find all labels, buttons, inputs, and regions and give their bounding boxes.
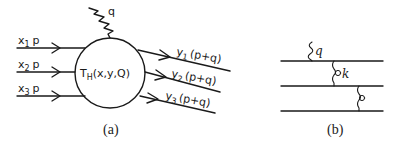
caption-a: (a) [103, 122, 119, 138]
photon-label-b: q [315, 44, 323, 58]
caption-b: (b) [327, 122, 343, 138]
outgoing-label-2: y2(p+q) [170, 67, 217, 90]
incoming-label-1: x1p [18, 34, 40, 49]
photon-label-a: q [108, 5, 115, 18]
vertex-label: TH(x,y,Q) [79, 67, 130, 82]
gluon-loop-1 [335, 70, 340, 75]
incoming-label-2: x2p [18, 58, 40, 73]
outgoing-label-3: y3(p+q) [164, 89, 211, 112]
gluon-label-k: k [342, 67, 349, 81]
photon-wavy-line-b [308, 42, 313, 61]
incoming-label-3: x3p [18, 82, 40, 97]
